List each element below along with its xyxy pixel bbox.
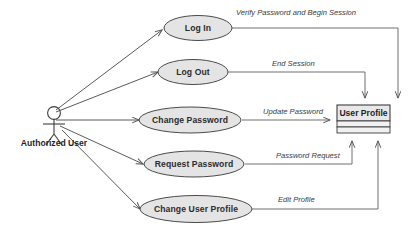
use-case-label: Log Out <box>176 67 210 77</box>
use-case-log-in[interactable]: Log In <box>164 16 232 41</box>
use-case-label: Change User Profile <box>154 204 238 214</box>
use-case-label: Change Password <box>152 115 228 125</box>
edge-label-edit-profile: Edit Profile <box>278 195 315 204</box>
edge-label-update-password: Update Password <box>263 107 324 116</box>
actor-label: Authorized User <box>21 138 88 148</box>
entity-title-label: User Profile <box>339 108 387 118</box>
entity-attributes-compartment <box>337 121 390 127</box>
use-case-request-password[interactable]: Request Password <box>144 151 244 177</box>
diagram-svg: Authorized User Log In Log Out Change Pa… <box>0 0 411 237</box>
association-actor-to-log-out <box>56 72 158 112</box>
connector-log-in-to-user-profile <box>232 28 398 98</box>
use-case-label: Log In <box>185 23 211 33</box>
association-actor-to-log-in <box>56 30 162 110</box>
edge-label-verify-password-and-begin-session: Verify Password and Begin Session <box>236 8 356 17</box>
actor-head-icon <box>48 107 61 120</box>
actor-authorized-user[interactable]: Authorized User <box>21 107 88 148</box>
use-case-label: Request Password <box>155 159 234 169</box>
use-case-diagram-canvas: Authorized User Log In Log Out Change Pa… <box>0 0 411 237</box>
entity-user-profile[interactable]: User Profile <box>337 105 390 133</box>
use-case-log-out[interactable]: Log Out <box>158 60 228 85</box>
connector-log-out-to-user-profile <box>228 72 365 98</box>
use-case-change-password[interactable]: Change Password <box>139 107 241 133</box>
use-case-change-user-profile[interactable]: Change User Profile <box>140 196 252 223</box>
edge-label-password-request: Password Request <box>276 151 341 160</box>
entity-operations-compartment <box>337 127 390 133</box>
edge-label-end-session: End Session <box>272 59 315 68</box>
